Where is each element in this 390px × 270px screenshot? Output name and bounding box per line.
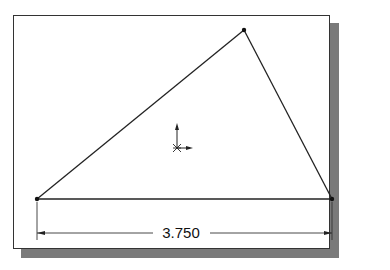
vertex-apex[interactable] [242, 28, 246, 32]
horizontal-dimension[interactable]: 3.750 [37, 202, 332, 241]
vertex-bottom-right[interactable] [330, 197, 334, 201]
arrowhead-right [324, 231, 332, 235]
arrowhead-left [37, 231, 45, 235]
edge-left[interactable] [37, 30, 244, 199]
dimension-value[interactable]: 3.750 [162, 224, 200, 241]
edge-right[interactable] [244, 30, 332, 199]
sketch-canvas: 3.750 [0, 0, 390, 270]
vertex-bottom-left[interactable] [35, 197, 39, 201]
origin-icon [173, 123, 193, 152]
